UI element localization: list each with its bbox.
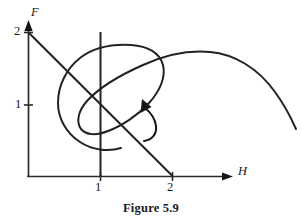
rotation-arrow-shaft bbox=[144, 108, 156, 141]
figure-5-9: F H 2 1 1 2 Figure 5.9 bbox=[0, 0, 302, 224]
y-axis bbox=[24, 20, 33, 176]
x-axis bbox=[28, 172, 233, 181]
rotation-direction-arrow bbox=[141, 99, 157, 141]
x-tick-label-1: 1 bbox=[95, 181, 101, 194]
x-tick-label-2: 2 bbox=[167, 181, 173, 194]
y-tick-label-2: 2 bbox=[14, 25, 20, 38]
plot-canvas bbox=[0, 0, 302, 224]
x-axis-arrowhead bbox=[222, 172, 233, 180]
x-axis-label: H bbox=[238, 165, 247, 178]
figure-caption: Figure 5.9 bbox=[0, 201, 302, 216]
y-tick-label-1: 1 bbox=[15, 98, 21, 111]
y-axis-arrowhead bbox=[24, 20, 32, 31]
y-axis-label: F bbox=[31, 6, 39, 19]
